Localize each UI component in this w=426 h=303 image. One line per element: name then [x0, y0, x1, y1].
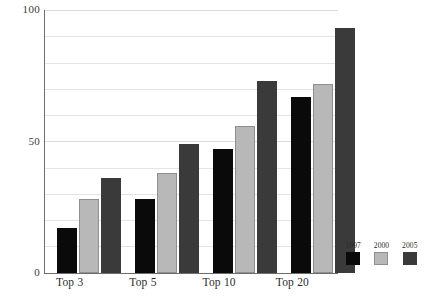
y-tick-label-100: 100	[2, 4, 40, 15]
bar-1997-top-10[interactable]	[213, 149, 233, 273]
y-tick-label-0: 0	[2, 267, 40, 278]
bar-2000-top-20[interactable]	[313, 84, 333, 273]
bars-layer	[45, 10, 338, 273]
bar-1997-top-3[interactable]	[57, 228, 77, 273]
legend-swatch-2000	[374, 252, 388, 265]
legend: 1997 2000 2005	[341, 241, 426, 265]
legend-item-2005[interactable]: 2005	[398, 241, 422, 265]
x-tick-label-top-20: Top 20	[264, 276, 337, 296]
y-axis: 100 50 0	[0, 0, 40, 303]
bar-group-top-5	[123, 10, 201, 273]
legend-swatch-2005	[403, 252, 417, 265]
legend-swatch-1997	[346, 252, 360, 265]
plot-area	[44, 10, 338, 274]
bar-chart: 100 50 0	[0, 0, 426, 303]
bar-2005-top-10[interactable]	[257, 81, 277, 273]
x-tick-label-top-5: Top 5	[117, 276, 190, 296]
bar-2000-top-5[interactable]	[157, 173, 177, 273]
legend-item-2000[interactable]: 2000	[369, 241, 393, 265]
bar-2005-top-3[interactable]	[101, 178, 121, 273]
bar-group-top-3	[45, 10, 123, 273]
x-tick-label-top-3: Top 3	[44, 276, 117, 296]
bar-2000-top-3[interactable]	[79, 199, 99, 273]
y-tick-label-50: 50	[2, 136, 40, 147]
bar-2000-top-10[interactable]	[235, 126, 255, 273]
bar-2005-top-5[interactable]	[179, 144, 199, 273]
legend-label-2005: 2005	[402, 241, 417, 250]
bar-group-top-20	[279, 10, 357, 273]
legend-label-1997: 1997	[345, 241, 360, 250]
bar-1997-top-20[interactable]	[291, 97, 311, 273]
bar-1997-top-5[interactable]	[135, 199, 155, 273]
x-tick-label-top-10: Top 10	[191, 276, 264, 296]
legend-label-2000: 2000	[374, 241, 389, 250]
bar-group-top-10	[201, 10, 279, 273]
x-axis: Top 3 Top 5 Top 10 Top 20	[44, 276, 337, 296]
bar-2005-top-20[interactable]	[335, 28, 355, 273]
legend-item-1997[interactable]: 1997	[341, 241, 365, 265]
